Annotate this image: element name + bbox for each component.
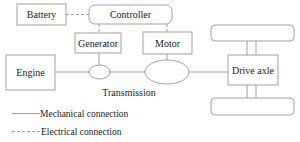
transmission-large-gear: [145, 60, 189, 84]
controller-node: Controller: [89, 5, 172, 24]
motor-label: Motor: [155, 38, 181, 49]
transmission-label: Transmission: [102, 87, 156, 98]
generator-label: Generator: [78, 38, 119, 49]
generator-node: Generator: [75, 33, 121, 53]
engine-label: Engine: [16, 67, 45, 78]
drive-axle-node: Drive axle: [228, 55, 278, 85]
motor-node: Motor: [143, 32, 192, 54]
drive-axle-label: Drive axle: [232, 65, 274, 76]
legend: Mechanical connection Electrical connect…: [12, 109, 129, 137]
battery-label: Battery: [27, 9, 56, 20]
battery-node: Battery: [17, 4, 66, 25]
wheel-top: [211, 25, 294, 41]
engine-node: Engine: [6, 55, 55, 90]
powertrain-diagram: Battery Controller Generator Motor Engin…: [0, 0, 300, 142]
transmission-small-gear: [89, 65, 110, 79]
legend-mechanical-label: Mechanical connection: [40, 109, 129, 119]
controller-label: Controller: [110, 9, 152, 20]
legend-electrical-label: Electrical connection: [41, 127, 122, 137]
wheel-bottom: [211, 98, 294, 115]
